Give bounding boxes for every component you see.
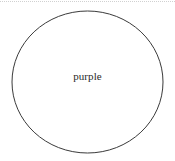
figure-canvas: purple [0, 0, 175, 161]
purple-set-label: purple [0, 70, 175, 83]
